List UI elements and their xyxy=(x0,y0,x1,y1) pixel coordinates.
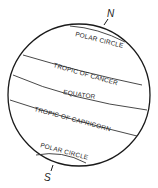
south-pole-label: S xyxy=(44,172,51,183)
north-axis-tick xyxy=(104,19,108,25)
tropic-of-capricorn-label: TROPIC OF CAPRICORN xyxy=(34,105,112,132)
tropic-of-cancer-label: TROPIC OF CANCER xyxy=(53,61,119,86)
equator-label: EQUATOR xyxy=(63,88,96,101)
north-polar-circle-label: POLAR CIRCLE xyxy=(75,30,125,49)
globe-svg: POLAR CIRCLE TROPIC OF CANCER EQUATOR TR… xyxy=(0,0,158,188)
globe-diagram: POLAR CIRCLE TROPIC OF CANCER EQUATOR TR… xyxy=(0,0,158,188)
south-axis-tick xyxy=(51,165,53,171)
north-pole-label: N xyxy=(107,8,115,19)
